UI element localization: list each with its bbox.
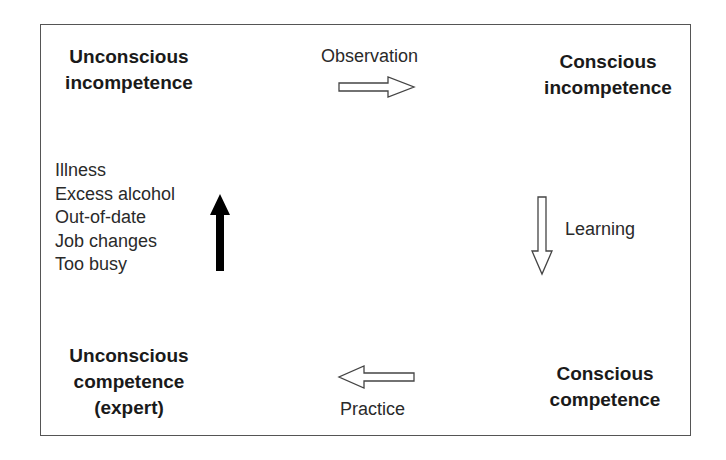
factor-item: Out-of-date: [55, 206, 175, 230]
regression-factors-list: Illness Excess alcohol Out-of-date Job c…: [55, 159, 175, 277]
stage-unconscious-competence-expert: Unconscious competence (expert): [54, 343, 204, 421]
stage-line: incompetence: [528, 75, 688, 101]
stage-conscious-competence: Conscious competence: [530, 361, 680, 413]
stage-line: Conscious: [528, 49, 688, 75]
stage-line: Unconscious: [54, 44, 204, 70]
arrow-down-icon: [530, 196, 554, 276]
factor-item: Illness: [55, 159, 175, 183]
stage-conscious-incompetence: Conscious incompetence: [528, 49, 688, 101]
factor-item: Too busy: [55, 253, 175, 277]
transition-label-learning: Learning: [565, 218, 635, 240]
stage-line: Conscious: [530, 361, 680, 387]
arrow-up-solid-icon: [209, 193, 231, 273]
stage-line: (expert): [54, 395, 204, 421]
arrow-left-icon: [338, 365, 416, 389]
transition-label-practice: Practice: [340, 398, 405, 420]
stage-line: incompetence: [54, 70, 204, 96]
transition-label-observation: Observation: [321, 45, 418, 67]
factor-item: Job changes: [55, 230, 175, 254]
factor-item: Excess alcohol: [55, 183, 175, 207]
stage-line: Unconscious: [54, 343, 204, 369]
stage-line: competence: [530, 387, 680, 413]
arrow-right-icon: [338, 76, 416, 98]
stage-line: competence: [54, 369, 204, 395]
stage-unconscious-incompetence: Unconscious incompetence: [54, 44, 204, 96]
